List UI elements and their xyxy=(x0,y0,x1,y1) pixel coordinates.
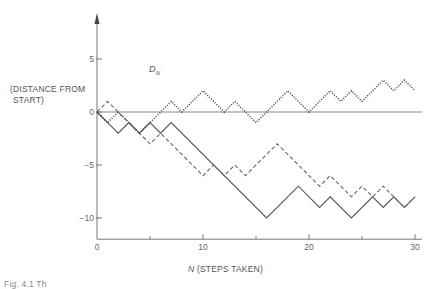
x-tick-label: 0 xyxy=(95,242,100,252)
y-tick-label: −5 xyxy=(84,160,94,170)
walk-dotted-line xyxy=(97,80,415,133)
y-axis-variable: DN xyxy=(149,64,160,76)
y-axis-label-line1: (DISTANCE FROM xyxy=(10,84,85,95)
y-axis-arrow-icon xyxy=(95,13,100,24)
x-tick-label: 20 xyxy=(304,242,314,252)
y-tick-label: 0 xyxy=(89,107,94,117)
x-tick-label: 30 xyxy=(410,242,420,252)
y-tick-label: −10 xyxy=(80,213,95,223)
y-tick-label: 5 xyxy=(89,54,94,64)
axes: 50−5−100102030 xyxy=(80,13,422,252)
y-axis-label: (DISTANCE FROM START) xyxy=(10,84,85,106)
figure-caption: Fig. 4.1 Th xyxy=(4,279,47,289)
x-axis-label: N (STEPS TAKEN) xyxy=(188,264,263,274)
series-lines xyxy=(97,80,415,218)
walk-dashed-line xyxy=(97,101,415,207)
x-tick-label: 10 xyxy=(198,242,208,252)
y-axis-label-line2: START) xyxy=(10,95,85,106)
